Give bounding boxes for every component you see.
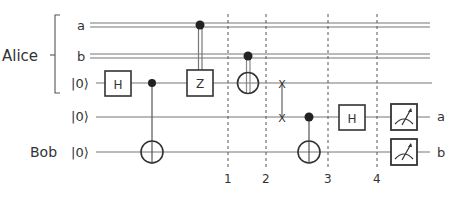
group-label-bob: Bob [30,144,57,160]
barrier-label-2: 2 [262,172,270,186]
swap-x-icon: X [278,78,286,91]
wire-label-bob-ket: |0⟩ [71,145,89,160]
control-dot-icon [305,113,314,122]
control-dot-icon [196,21,205,30]
group-label-alice: Alice [2,47,38,65]
control-dot-icon [148,79,156,87]
wire-label-a: a [77,18,85,33]
wire-label-b: b [77,49,85,64]
wire-label-q0-ket: |0⟩ [71,76,89,91]
h-gate-q0: H [105,71,131,96]
z-gate-label: Z [196,77,204,91]
output-label-b: b [437,145,445,160]
quantum-circuit-diagram: Alice Bob a b |0⟩ |0⟩ |0⟩ 1 2 3 4 H [0,0,458,197]
control-dot-icon [244,52,253,61]
wire-label-q1-ket: |0⟩ [71,109,89,124]
barrier-label-4: 4 [373,172,381,186]
measure-q1 [391,104,417,130]
swap-gate: X X [278,78,286,125]
h-gate-q1-label: H [347,112,356,126]
classical-wire-a [90,23,430,27]
barrier-label-1: 1 [224,172,232,186]
alice-bracket [50,15,60,93]
cnot-q0-bob [141,79,163,164]
barrier-label-3: 3 [324,172,332,186]
swap-x-icon: X [278,112,286,125]
h-gate-q0-label: H [113,78,122,92]
cnot-q1-bob [298,113,320,164]
classical-wire-b [90,54,430,58]
h-gate-q1: H [339,105,365,130]
measure-bob [391,139,417,165]
output-label-a: a [437,109,445,124]
